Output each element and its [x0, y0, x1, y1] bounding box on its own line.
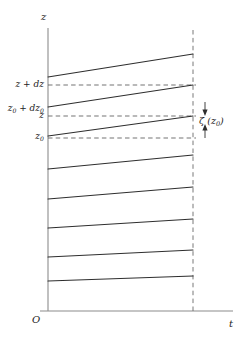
t-axis-label: t	[229, 319, 233, 329]
tick-label-z: z	[22, 111, 44, 120]
particle-path	[48, 250, 193, 257]
zeta-close-text: )	[220, 115, 224, 126]
zeta-open-text: ζ (z	[199, 115, 216, 126]
tick-label-z0: z0	[18, 132, 44, 142]
origin-label: O	[32, 315, 40, 325]
z-axis-label: z	[41, 12, 46, 22]
diagram-canvas	[0, 0, 247, 346]
particle-path	[48, 116, 193, 136]
tick-label-z0-sub: 0	[40, 135, 44, 142]
particle-path	[48, 85, 193, 107]
zeta-displacement-label: ζ (z0)	[199, 116, 224, 127]
particle-path	[48, 54, 193, 77]
tick-label-z-plus-dz: z + dz	[8, 80, 44, 89]
particle-path	[48, 219, 193, 228]
particle-path	[48, 155, 193, 169]
particle-path	[48, 187, 193, 199]
particle-path	[48, 276, 193, 281]
tick-label-z-text: z	[39, 110, 44, 120]
figure-container: z t O z + dz z0 + dz0 z z0 ζ (z0)	[0, 0, 247, 346]
tick-label-z-plus-dz-text: z + dz	[15, 79, 44, 89]
